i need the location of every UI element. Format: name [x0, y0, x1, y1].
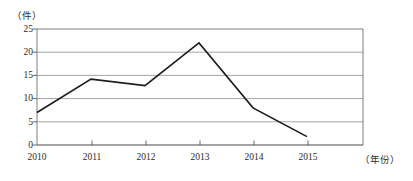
plot-area — [0, 0, 413, 181]
y-axis — [33, 29, 38, 145]
x-axis — [37, 141, 363, 146]
line-chart: （件） （年份） 25 20 15 10 5 0 2010 2011 2012 … — [0, 0, 413, 181]
plot-frame — [37, 29, 363, 145]
data-series-line — [37, 43, 307, 137]
